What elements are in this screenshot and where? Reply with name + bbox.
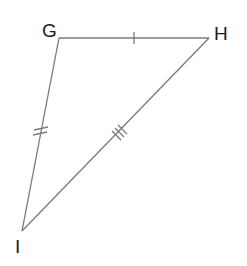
vertex-label-g: G [42, 21, 57, 40]
vertex-label-i: I [15, 237, 20, 256]
triangle-diagram: G H I [0, 0, 247, 266]
triangle-svg [0, 0, 247, 266]
tick-mark-hi-triple [112, 125, 127, 140]
tick-mark-gi-double [33, 127, 48, 135]
vertex-label-h: H [214, 24, 228, 43]
side-gi [22, 38, 59, 231]
